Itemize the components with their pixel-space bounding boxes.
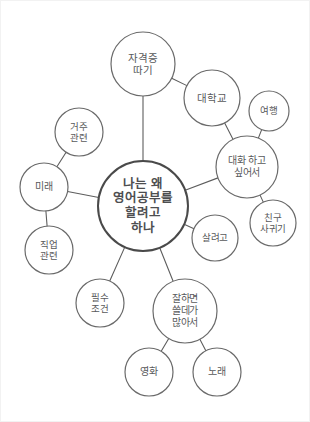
edge-future-job bbox=[46, 211, 47, 226]
mindmap-canvas: 나는 왜 영어공부를 할려고 하나자격증 따기대학교여행대화 하고 싶어서친구 … bbox=[0, 0, 310, 422]
edge-useful-movies bbox=[161, 339, 169, 352]
edge-conversation-travel bbox=[258, 130, 261, 139]
edge-root-future bbox=[68, 192, 99, 198]
node-to-live[interactable] bbox=[192, 215, 238, 261]
node-many-uses-if-good[interactable] bbox=[153, 279, 217, 343]
node-future[interactable] bbox=[20, 163, 68, 211]
node-songs[interactable] bbox=[193, 348, 241, 396]
edge-root-requirement bbox=[110, 247, 125, 281]
mindmap-svg bbox=[1, 1, 310, 422]
node-root-why-study-english[interactable] bbox=[98, 161, 188, 251]
edge-root-survive bbox=[184, 224, 194, 228]
edge-future-residence bbox=[57, 152, 66, 167]
edge-university-conversation bbox=[225, 123, 233, 139]
node-job-related[interactable] bbox=[25, 226, 73, 274]
edge-conversation-friends bbox=[260, 195, 263, 202]
node-travel[interactable] bbox=[249, 91, 289, 131]
node-university[interactable] bbox=[184, 70, 240, 126]
node-essential-requirement[interactable] bbox=[76, 279, 124, 327]
node-make-friends[interactable] bbox=[250, 200, 296, 246]
node-certification[interactable] bbox=[111, 32, 175, 96]
node-movies[interactable] bbox=[125, 348, 173, 396]
edge-root-conversation bbox=[185, 178, 218, 190]
edge-useful-songs bbox=[200, 339, 206, 350]
node-residence-related[interactable] bbox=[55, 108, 103, 156]
edge-certification-university bbox=[172, 78, 187, 85]
nodes-group bbox=[20, 32, 296, 396]
node-want-conversation[interactable] bbox=[216, 136, 278, 198]
edge-root-useful bbox=[160, 248, 173, 282]
